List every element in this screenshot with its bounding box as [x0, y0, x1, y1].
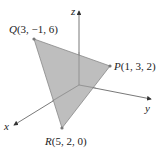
- diagram-canvas: z y x Q(3, −1, 6) P(1, 3, 2) R(5, 2, 0): [0, 0, 159, 150]
- point-p: [108, 64, 111, 67]
- point-r: [60, 126, 63, 129]
- label-r: R(5, 2, 0): [44, 135, 87, 148]
- triangle-pqr: [34, 39, 110, 128]
- x-axis-label: x: [3, 120, 9, 132]
- y-axis-label: y: [144, 102, 150, 114]
- z-axis-label: z: [70, 5, 76, 17]
- point-q: [32, 37, 35, 40]
- label-q: Q(3, −1, 6): [9, 23, 58, 36]
- label-p: P(1, 3, 2): [113, 60, 156, 73]
